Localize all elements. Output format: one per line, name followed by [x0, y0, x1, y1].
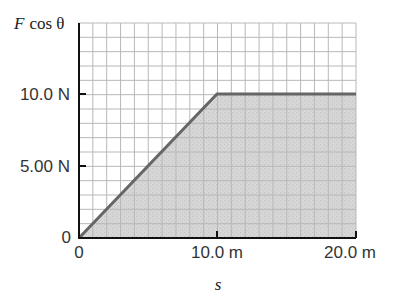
y-tick-label-0: 0: [62, 228, 71, 247]
work-graph: Fcos θ 10.0 N 5.00 N 0 0 10.0 m 20.0 m s: [0, 0, 394, 300]
y-tick-label-10: 10.0 N: [20, 85, 70, 104]
grid-lines: [79, 23, 356, 238]
x-tick-label-10: 10.0 m: [191, 243, 243, 262]
y-axis-title: Fcos θ: [13, 14, 64, 33]
x-tick-label-0: 0: [74, 243, 83, 262]
x-tick-label-20: 20.0 m: [324, 243, 376, 262]
y-tick-label-5: 5.00 N: [20, 157, 70, 176]
x-axis-title: s: [215, 275, 222, 294]
